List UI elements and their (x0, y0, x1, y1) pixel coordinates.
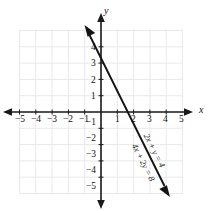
y-tick-label-4: 4 (91, 43, 96, 53)
x-axis-label: x (199, 105, 203, 115)
x-axis-arrow-left (3, 108, 12, 116)
y-tick-label-neg3: −3 (86, 150, 96, 160)
coordinate-plane-svg (0, 0, 219, 211)
y-tick-label-3: 3 (91, 59, 96, 69)
x-tick-label-1: 1 (115, 115, 120, 125)
y-tick-label-neg4: −4 (86, 166, 96, 176)
y-tick-label-neg1: −1 (86, 118, 96, 128)
x-tick-label-4: 4 (163, 115, 168, 125)
x-tick-label-2: 2 (131, 115, 136, 125)
y-axis-label: y (104, 6, 108, 16)
graph-figure: y x −5 −4 −3 −2 −1 1 2 3 4 5 1 2 3 4 −1 … (0, 0, 219, 211)
x-tick-label-5: 5 (179, 115, 184, 125)
x-tick-label-3: 3 (147, 115, 152, 125)
y-tick-label-neg2: −2 (86, 134, 96, 144)
x-tick-label-neg2: −2 (63, 115, 73, 125)
y-tick-label-1: 1 (91, 92, 96, 102)
y-tick-label-neg5: −5 (86, 182, 96, 192)
y-axis (97, 13, 105, 209)
x-tick-label-neg3: −3 (47, 115, 57, 125)
y-tick-label-2: 2 (91, 76, 96, 86)
line-arrow-lower (159, 185, 170, 197)
x-tick-label-neg5: −5 (15, 115, 25, 125)
plotted-line (85, 25, 171, 197)
x-tick-label-neg4: −4 (31, 115, 41, 125)
x-axis-arrow-right (184, 108, 193, 116)
y-axis-arrow-bottom (97, 200, 105, 209)
